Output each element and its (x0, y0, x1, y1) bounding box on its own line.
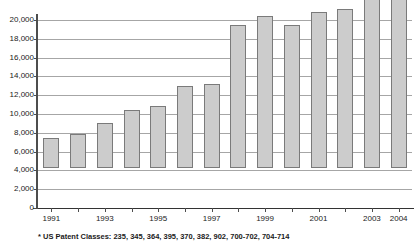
x-axis-tick-label: 1991 (36, 214, 66, 223)
x-axis-tick-mark (372, 208, 373, 212)
x-axis-tick-label: 1999 (250, 214, 280, 223)
x-axis-tick-mark (132, 208, 133, 212)
y-axis-tick-mark (34, 39, 38, 40)
y-axis-tick-label: 20,000 (0, 16, 34, 24)
bar (97, 123, 113, 168)
x-axis-tick-mark (51, 208, 52, 212)
y-axis-tick-mark (34, 95, 38, 96)
y-axis-tick-label: 0 (0, 204, 34, 212)
y-axis-tick-label: 4,000 (0, 166, 34, 174)
y-axis-tick-mark (34, 152, 38, 153)
x-axis-tick-label: 1997 (197, 214, 227, 223)
bar-series (38, 0, 412, 209)
bar (284, 25, 300, 168)
x-axis-tick-mark (185, 208, 186, 212)
x-axis-tick-mark (319, 208, 320, 212)
y-axis-tick-mark (34, 170, 38, 171)
x-axis-tick-mark (212, 208, 213, 212)
bar (204, 84, 220, 168)
bar (124, 110, 140, 168)
y-axis-labels: 02,0004,0006,0008,00010,00012,00014,0001… (0, 0, 34, 249)
chart-footnote: * US Patent Classes: 235, 345, 364, 395,… (38, 232, 289, 241)
y-axis-tick-mark (34, 20, 38, 21)
y-axis-tick-label: 8,000 (0, 129, 34, 137)
x-axis-tick-mark (105, 208, 106, 212)
y-axis-tick-mark (34, 189, 38, 190)
x-axis-tick-mark (292, 208, 293, 212)
bar (177, 86, 193, 168)
patent-bar-chart: 02,0004,0006,0008,00010,00012,00014,0001… (0, 0, 419, 249)
bar (230, 25, 246, 168)
y-axis-tick-label: 18,000 (0, 35, 34, 43)
x-axis-tick-label: 2003 (357, 214, 387, 223)
y-axis-tick-mark (34, 114, 38, 115)
y-axis-tick-label: 2,000 (0, 185, 34, 193)
x-axis-tick-label: 2004 (384, 214, 414, 223)
bar (43, 138, 59, 168)
bar (257, 16, 273, 168)
y-axis-tick-label: 14,000 (0, 72, 34, 80)
y-axis-tick-label: 12,000 (0, 91, 34, 99)
bar (337, 9, 353, 168)
x-axis-tick-mark (399, 208, 400, 212)
x-axis-tick-label: 2001 (304, 214, 334, 223)
x-axis-tick-mark (345, 208, 346, 212)
y-axis-tick-mark (34, 133, 38, 134)
x-axis-tick-mark (158, 208, 159, 212)
x-axis-tick-mark (238, 208, 239, 212)
y-axis-tick-label: 16,000 (0, 54, 34, 62)
bar (150, 106, 166, 168)
y-axis-tick-mark (34, 76, 38, 77)
bar (70, 134, 86, 168)
x-axis-tick-mark (265, 208, 266, 212)
x-axis-tick-mark (78, 208, 79, 212)
bar (311, 12, 327, 168)
y-axis-tick-mark (34, 58, 38, 59)
y-axis-tick-label: 6,000 (0, 148, 34, 156)
x-axis-tick-label: 1993 (90, 214, 120, 223)
y-axis-tick-label: 10,000 (0, 110, 34, 118)
bar (391, 0, 407, 168)
x-axis-tick-label: 1995 (143, 214, 173, 223)
bar (364, 0, 380, 168)
y-axis-tick-mark (34, 208, 38, 209)
